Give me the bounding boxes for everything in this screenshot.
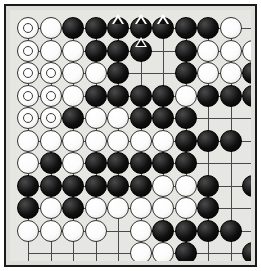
stone-black[interactable] [85, 40, 107, 62]
stone-black[interactable] [242, 85, 251, 107]
stone-black[interactable] [85, 17, 107, 39]
stone-white[interactable] [62, 62, 84, 84]
stone-white[interactable] [17, 85, 39, 107]
stone-black[interactable] [107, 17, 129, 39]
stone-white[interactable] [17, 17, 39, 39]
stone-black[interactable] [17, 175, 39, 197]
stone-white[interactable] [197, 62, 219, 84]
stone-white[interactable] [220, 40, 242, 62]
stone-black[interactable] [242, 62, 251, 84]
stone-black[interactable] [175, 62, 197, 84]
stone-white[interactable] [107, 130, 129, 152]
stone-white[interactable] [17, 62, 39, 84]
stone-black[interactable] [220, 220, 242, 242]
stone-black[interactable] [175, 152, 197, 174]
stone-black[interactable] [107, 62, 129, 84]
stone-black[interactable] [152, 152, 174, 174]
stone-white[interactable] [85, 197, 107, 219]
stone-white[interactable] [40, 220, 62, 242]
stone-black[interactable] [197, 85, 219, 107]
stone-black[interactable] [175, 130, 197, 152]
stone-white[interactable] [175, 175, 197, 197]
stone-black[interactable] [17, 197, 39, 219]
go-board-surface[interactable] [10, 10, 251, 261]
stone-black[interactable] [175, 242, 197, 261]
stone-white[interactable] [220, 17, 242, 39]
stone-black[interactable] [220, 130, 242, 152]
stone-white[interactable] [220, 62, 242, 84]
stone-white[interactable] [107, 197, 129, 219]
stone-white[interactable] [85, 130, 107, 152]
stone-black[interactable] [130, 17, 152, 39]
stone-black[interactable] [85, 175, 107, 197]
stone-black[interactable] [85, 152, 107, 174]
stone-white[interactable] [17, 40, 39, 62]
stone-black[interactable] [152, 17, 174, 39]
stone-black[interactable] [85, 85, 107, 107]
stone-white[interactable] [130, 197, 152, 219]
stone-black[interactable] [62, 17, 84, 39]
stone-white[interactable] [40, 85, 62, 107]
stone-black[interactable] [107, 175, 129, 197]
stone-white[interactable] [40, 17, 62, 39]
stone-black[interactable] [175, 40, 197, 62]
stone-black[interactable] [152, 107, 174, 129]
stone-white[interactable] [152, 197, 174, 219]
stone-white[interactable] [152, 242, 174, 261]
stone-black[interactable] [40, 175, 62, 197]
stone-white[interactable] [152, 130, 174, 152]
stone-white[interactable] [40, 62, 62, 84]
stone-white[interactable] [40, 40, 62, 62]
stone-black[interactable] [107, 40, 129, 62]
stone-black[interactable] [107, 85, 129, 107]
stone-white[interactable] [62, 220, 84, 242]
stone-black[interactable] [197, 197, 219, 219]
stone-white[interactable] [85, 62, 107, 84]
stone-black[interactable] [220, 85, 242, 107]
stone-white[interactable] [62, 130, 84, 152]
stone-white[interactable] [85, 220, 107, 242]
stone-black[interactable] [197, 17, 219, 39]
stone-white[interactable] [17, 130, 39, 152]
stone-white[interactable] [85, 107, 107, 129]
stone-black[interactable] [130, 152, 152, 174]
stone-black[interactable] [175, 17, 197, 39]
stone-black[interactable] [152, 85, 174, 107]
stone-white[interactable] [152, 175, 174, 197]
stone-black[interactable] [242, 175, 251, 197]
stone-white[interactable] [17, 152, 39, 174]
stone-black[interactable] [242, 242, 251, 261]
stone-white[interactable] [17, 107, 39, 129]
stone-black[interactable] [130, 85, 152, 107]
stone-white[interactable] [62, 40, 84, 62]
stone-white[interactable] [197, 40, 219, 62]
stone-white[interactable] [40, 130, 62, 152]
stone-white[interactable] [62, 85, 84, 107]
stone-white[interactable] [107, 107, 129, 129]
stone-white[interactable] [40, 197, 62, 219]
stone-white[interactable] [40, 107, 62, 129]
triangle-mark-icon [112, 24, 124, 34]
stone-black[interactable] [130, 40, 152, 62]
stone-white[interactable] [175, 197, 197, 219]
stone-white[interactable] [130, 130, 152, 152]
stone-white[interactable] [175, 85, 197, 107]
stone-white[interactable] [17, 220, 39, 242]
stone-white[interactable] [130, 242, 152, 261]
stone-black[interactable] [130, 175, 152, 197]
stone-white[interactable] [242, 40, 251, 62]
stone-black[interactable] [197, 220, 219, 242]
stone-black[interactable] [175, 107, 197, 129]
stone-black[interactable] [175, 220, 197, 242]
stone-black[interactable] [62, 107, 84, 129]
stone-white[interactable] [62, 152, 84, 174]
stone-black[interactable] [197, 130, 219, 152]
stone-black[interactable] [62, 175, 84, 197]
stone-black[interactable] [130, 107, 152, 129]
stone-black[interactable] [197, 175, 219, 197]
stone-black[interactable] [152, 220, 174, 242]
stone-black[interactable] [107, 152, 129, 174]
stone-black[interactable] [62, 197, 84, 219]
stone-black[interactable] [40, 152, 62, 174]
stone-white[interactable] [130, 220, 152, 242]
